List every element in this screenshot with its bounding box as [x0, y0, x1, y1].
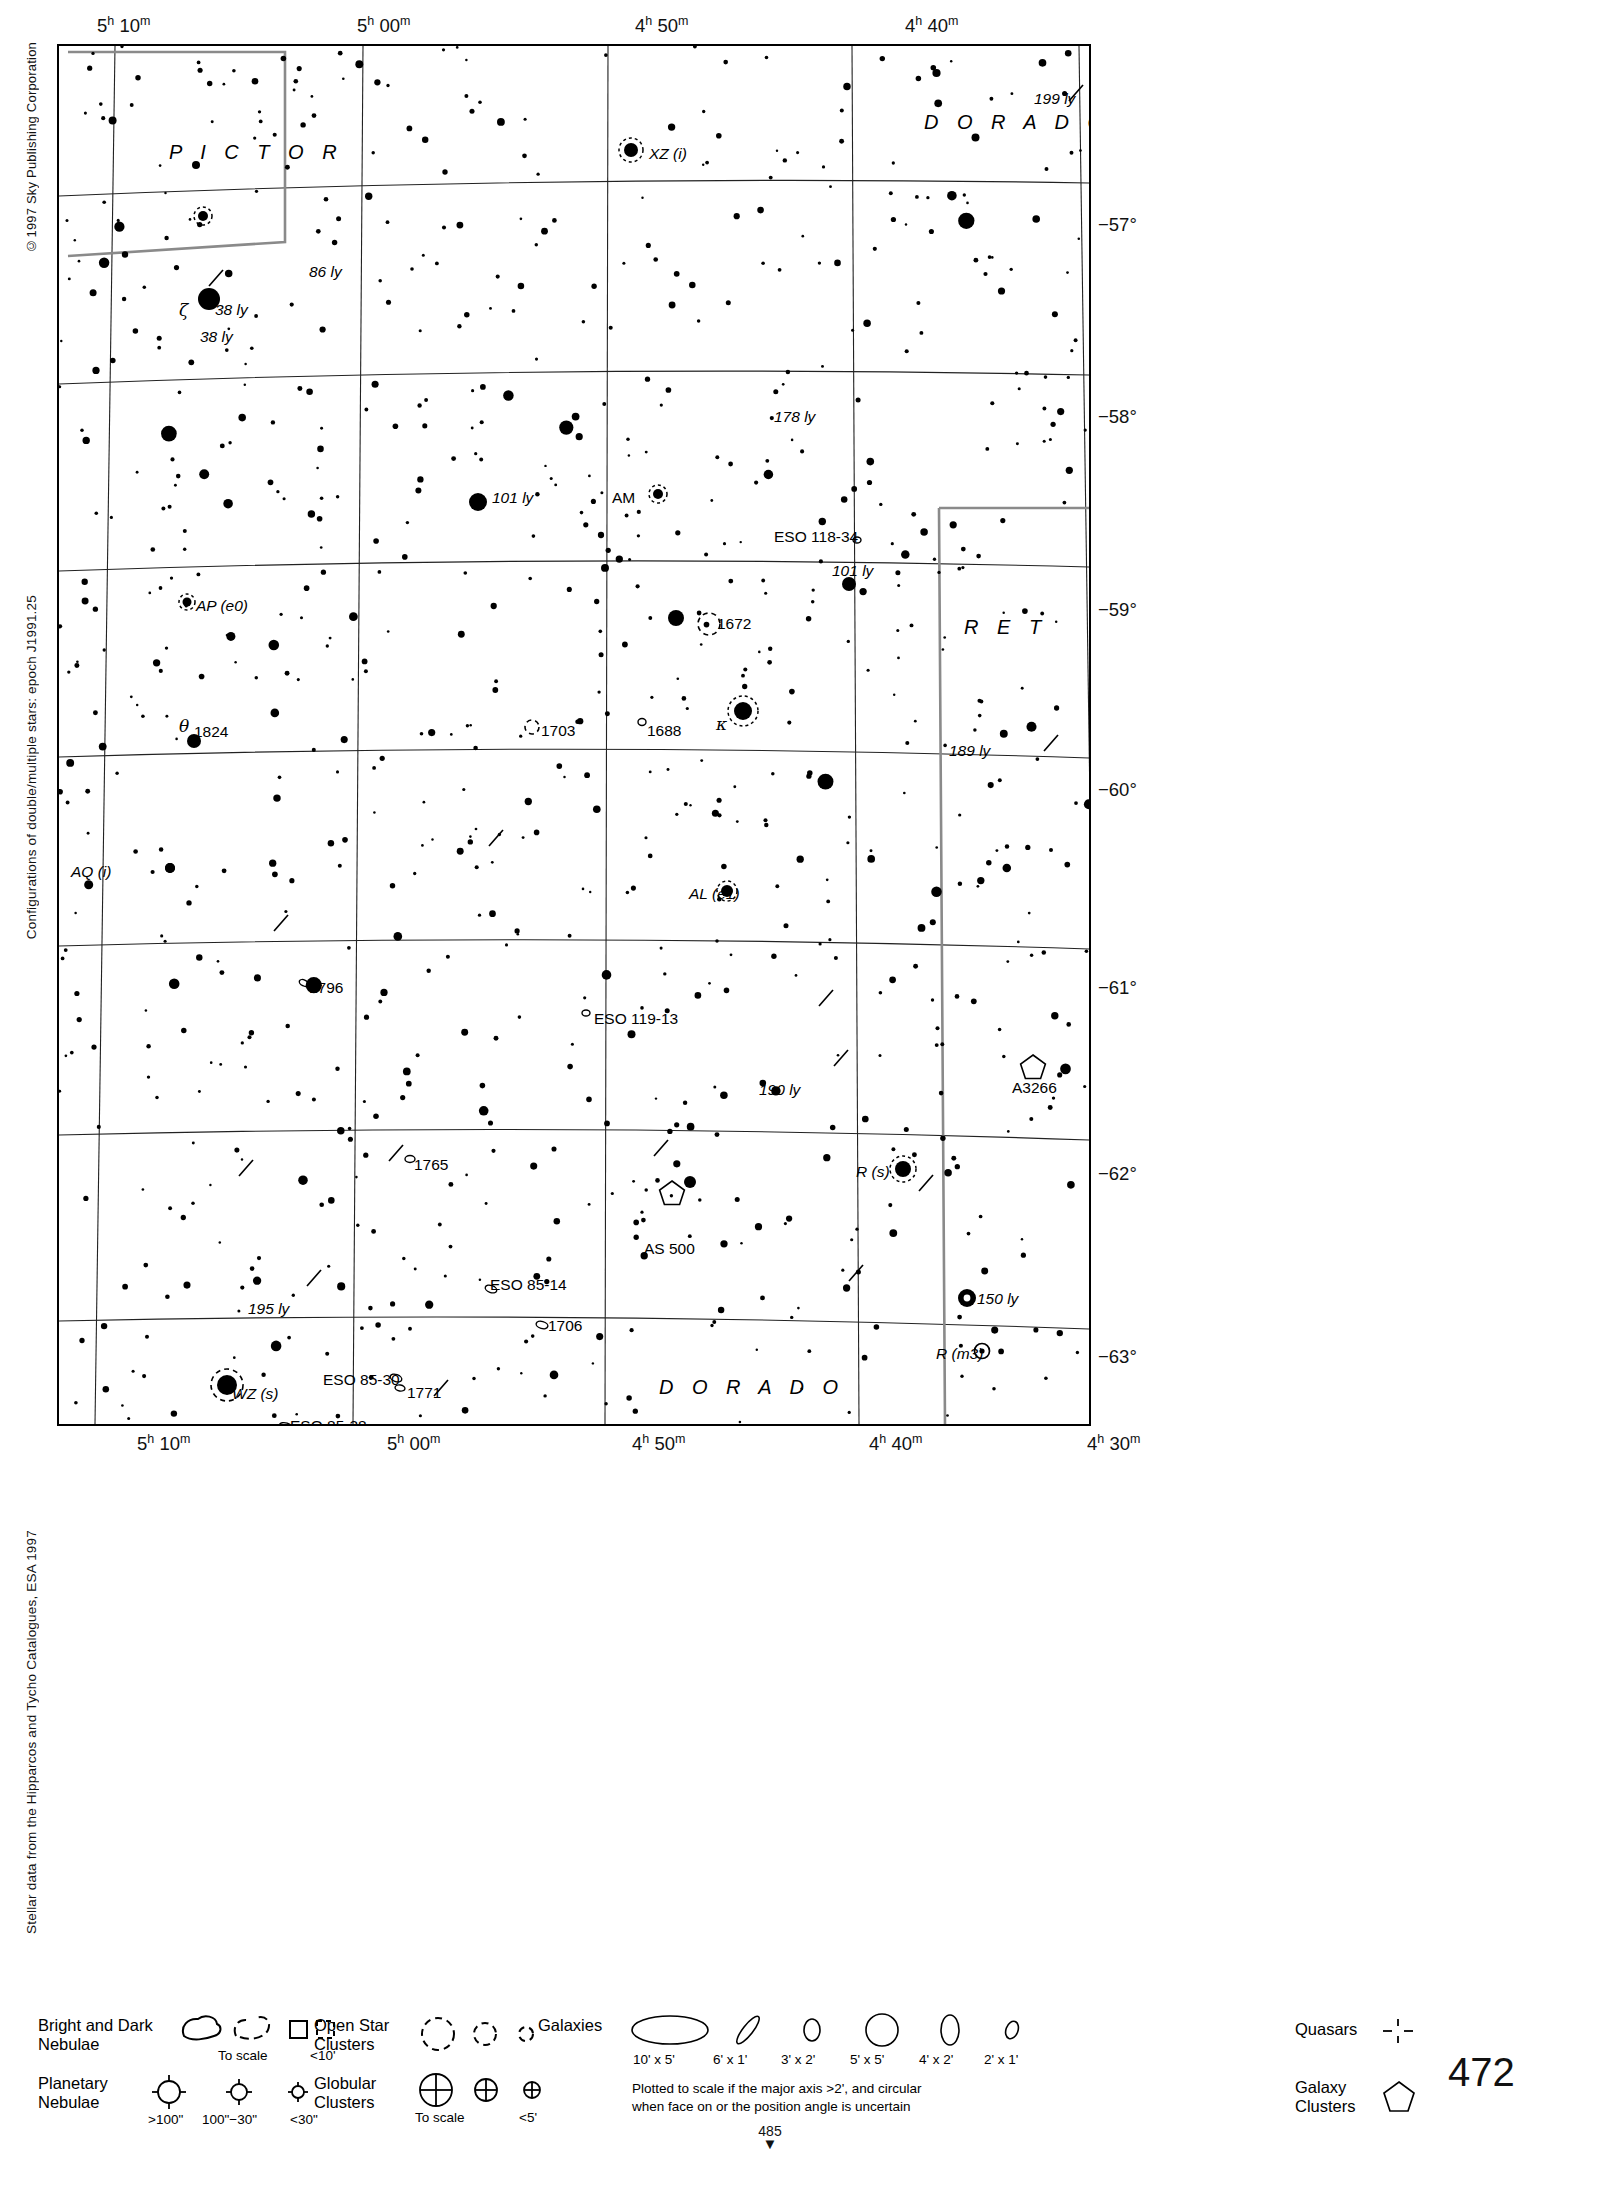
- star: [85, 789, 90, 794]
- star: [328, 840, 335, 847]
- star: [536, 173, 539, 176]
- variable-star: [183, 598, 192, 607]
- star: [244, 363, 247, 366]
- star: [446, 955, 450, 959]
- object-label: AQ (i): [71, 864, 111, 880]
- star: [127, 1417, 130, 1420]
- star: [773, 389, 778, 394]
- star: [757, 207, 764, 214]
- star: [1024, 371, 1029, 376]
- sky-chart[interactable]: P I C T O R D O R A D O R E T D O R A D …: [57, 44, 1091, 1426]
- star: [465, 59, 468, 62]
- star: [101, 1323, 107, 1329]
- star: [740, 1242, 742, 1244]
- star: [130, 695, 133, 698]
- star: [1074, 338, 1078, 342]
- star: [754, 481, 758, 485]
- globular-cluster-symbols: [414, 2072, 564, 2110]
- star: [776, 149, 778, 151]
- star: [335, 1066, 339, 1070]
- star: [846, 841, 849, 844]
- star: [165, 1295, 170, 1300]
- ra-tick-label-bottom: 4h 50m: [632, 1432, 685, 1455]
- object-label: 189 ly: [949, 743, 990, 759]
- proper-motion-arrow: [1044, 735, 1058, 751]
- star: [424, 398, 428, 402]
- star: [604, 1402, 607, 1405]
- star: [633, 1220, 639, 1226]
- star: [895, 570, 900, 575]
- star: [65, 1054, 68, 1057]
- legend-nebulae-to-scale: To scale: [218, 2048, 268, 2063]
- star: [550, 477, 553, 480]
- star: [76, 661, 79, 664]
- star: [199, 674, 205, 680]
- star: [687, 1123, 695, 1131]
- bright-star: [469, 493, 487, 511]
- star: [80, 429, 83, 432]
- star: [704, 552, 708, 556]
- star: [700, 759, 703, 762]
- star: [211, 120, 214, 123]
- star: [219, 1241, 221, 1243]
- star: [102, 200, 106, 204]
- star: [1070, 349, 1073, 352]
- star: [897, 584, 900, 587]
- star: [622, 262, 625, 265]
- star: [297, 66, 302, 71]
- star: [174, 265, 179, 270]
- star: [83, 1196, 88, 1201]
- star: [175, 738, 178, 741]
- star: [148, 592, 151, 595]
- dec-tick-label: −61°: [1098, 977, 1137, 999]
- star: [362, 659, 368, 665]
- star: [74, 991, 79, 996]
- star: [641, 1218, 646, 1223]
- star: [695, 992, 702, 999]
- star: [371, 151, 374, 154]
- star: [442, 226, 446, 230]
- star: [626, 1395, 632, 1401]
- variable-star: [198, 211, 208, 221]
- star: [918, 924, 926, 932]
- star: [74, 663, 79, 668]
- star: [700, 643, 703, 646]
- star: [136, 704, 138, 706]
- star: [292, 1294, 295, 1297]
- star: [866, 458, 874, 466]
- star: [567, 1064, 573, 1070]
- star: [336, 770, 339, 773]
- star: [697, 611, 702, 616]
- star: [244, 384, 246, 386]
- star: [293, 89, 296, 92]
- star: [1084, 428, 1087, 431]
- star: [136, 471, 139, 474]
- star: [117, 219, 120, 222]
- star: [342, 77, 345, 80]
- star: [146, 1044, 150, 1048]
- star: [415, 488, 421, 494]
- star: [821, 365, 824, 368]
- star: [705, 161, 709, 165]
- legend-nebulae-title-1: Bright and Dark: [38, 2016, 153, 2034]
- star: [1015, 371, 1018, 374]
- star: [170, 576, 173, 579]
- star: [266, 1100, 269, 1103]
- star: [674, 1122, 679, 1127]
- star: [342, 837, 348, 843]
- star: [464, 94, 468, 98]
- star: [295, 1413, 298, 1416]
- star: [479, 1279, 482, 1282]
- star: [892, 161, 895, 164]
- star: [554, 483, 557, 486]
- star: [444, 1274, 447, 1277]
- object-label: 1771: [407, 1385, 441, 1401]
- object-label: 1688: [647, 723, 681, 739]
- star: [1052, 1096, 1055, 1099]
- star: [736, 820, 739, 823]
- star: [469, 109, 474, 114]
- star: [1036, 757, 1040, 761]
- star: [905, 741, 909, 745]
- star: [226, 632, 235, 641]
- star: [867, 669, 870, 672]
